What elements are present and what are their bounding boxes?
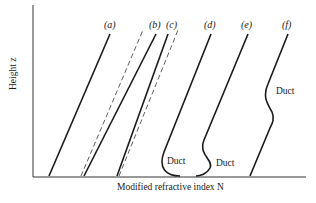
curve-b [84,34,156,176]
duct-label-d: Duct [167,156,185,166]
curve-c-dashed [119,30,178,176]
curve-c [117,34,168,176]
label-a: (a) [104,19,116,30]
duct-label-f: Duct [276,86,294,96]
curve-a [49,34,110,176]
x-axis-label: Modified refractive index N [117,182,224,192]
refractive-index-diagram [0,0,316,203]
label-c: (c) [166,19,177,30]
label-e: (e) [241,19,252,30]
label-f: (f) [282,19,291,30]
curve-e [196,34,248,176]
duct-label-e: Duct [216,158,234,168]
curve-f [250,34,288,176]
y-axis-label: Height z [8,58,18,90]
label-d: (d) [204,19,216,30]
curve-b-dashed [81,30,143,176]
curve-d [162,34,211,176]
label-b: (b) [149,19,161,30]
